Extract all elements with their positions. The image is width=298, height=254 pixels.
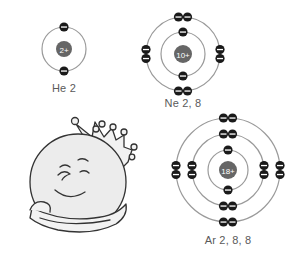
atom-neon: 10+	[141, 12, 224, 95]
electron-icon	[59, 22, 68, 31]
atom-argon: 18+	[171, 113, 284, 226]
atom-label-helium: He 2	[52, 82, 76, 94]
nucleus-charge: 2+	[59, 46, 68, 55]
atom-label-neon: Ne 2, 8	[165, 97, 202, 109]
atom-label-argon: Ar 2, 8, 8	[205, 234, 252, 246]
nucleus-charge: 10+	[176, 51, 190, 60]
atom-helium: 2+	[42, 22, 86, 75]
electron-icon	[59, 66, 68, 75]
diagram-canvas: 2+ 10+ 18+	[0, 0, 298, 254]
crowned-mascot-illustration	[30, 118, 137, 233]
nucleus-charge: 18+	[221, 167, 235, 176]
